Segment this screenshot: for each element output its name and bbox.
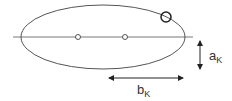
semi-minor-axis-label: aK — [209, 49, 222, 65]
semi-major-axis-label: bK — [137, 83, 150, 99]
label-b-subscript: K — [144, 89, 150, 99]
focus-point-right — [123, 35, 128, 40]
orbit-diagram — [0, 0, 232, 101]
focus-point-left — [76, 35, 81, 40]
label-a-subscript: K — [216, 55, 222, 65]
